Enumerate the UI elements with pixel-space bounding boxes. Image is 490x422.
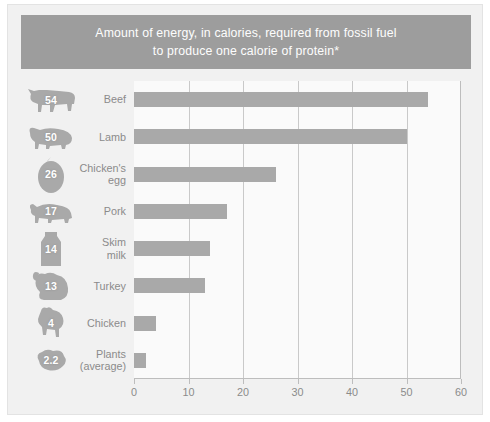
bar — [134, 92, 428, 107]
category-label: Chicken'segg — [66, 162, 126, 187]
category-row: 17Pork — [8, 193, 134, 230]
category-row: 2.2Plants(average) — [8, 342, 134, 379]
axis-tick-label: 20 — [237, 386, 249, 398]
bar-row — [134, 342, 460, 379]
bar — [134, 167, 276, 182]
category-label-line: Lamb — [66, 131, 126, 144]
category-row: 50Lamb — [8, 118, 134, 155]
axis-tick — [134, 379, 135, 384]
value-label: 14 — [45, 243, 57, 255]
chart-area: 54Beef50Lamb26Chicken'segg17Pork14Skimmi… — [8, 77, 483, 415]
value-label: 4 — [48, 317, 54, 329]
bar-row — [134, 193, 460, 230]
axis-tick — [407, 379, 408, 384]
category-label: Turkey — [66, 280, 126, 293]
bar-row — [134, 267, 460, 304]
category-label-line: Chicken's — [66, 162, 126, 175]
plot-area — [134, 81, 461, 379]
bar-row — [134, 156, 460, 193]
value-label: 26 — [45, 168, 57, 180]
category-label-line: Plants — [66, 348, 126, 361]
axis-tick-label: 40 — [346, 386, 358, 398]
category-label-line: egg — [66, 174, 126, 187]
axis-tick-label: 50 — [400, 386, 412, 398]
axis-tick — [298, 379, 299, 384]
value-label: 13 — [45, 280, 57, 292]
value-label: 50 — [45, 131, 57, 143]
chart-title-line-1: Amount of energy, in calories, required … — [95, 24, 396, 42]
axis-tick-label: 0 — [131, 386, 137, 398]
category-label-line: milk — [66, 249, 126, 262]
category-label: Pork — [66, 205, 126, 218]
bar-row — [134, 81, 460, 118]
axis-tick — [189, 379, 190, 384]
category-label-line: Skim — [66, 236, 126, 249]
category-row: 14Skimmilk — [8, 230, 134, 267]
value-label: 54 — [45, 94, 57, 106]
value-label: 17 — [45, 205, 57, 217]
category-row: 4Chicken — [8, 305, 134, 342]
chart-card: Amount of energy, in calories, required … — [7, 4, 483, 415]
category-row: 26Chicken'segg — [8, 156, 134, 193]
bar — [134, 316, 156, 331]
bar-row — [134, 305, 460, 342]
category-label: Plants(average) — [66, 348, 126, 373]
axis-tick — [461, 379, 462, 384]
category-label-line: Turkey — [66, 280, 126, 293]
value-label: 2.2 — [43, 354, 58, 366]
bar — [134, 353, 146, 368]
category-row: 13Turkey — [8, 267, 134, 304]
axis-tick-label: 10 — [182, 386, 194, 398]
category-row: 54Beef — [8, 81, 134, 118]
bar-row — [134, 118, 460, 155]
axis-tick-label: 30 — [291, 386, 303, 398]
category-label: Chicken — [66, 317, 126, 330]
x-axis: 0102030405060 — [134, 379, 462, 409]
category-label: Lamb — [66, 131, 126, 144]
chart-title-banner: Amount of energy, in calories, required … — [21, 15, 471, 69]
bar — [134, 204, 227, 219]
category-label: Skimmilk — [66, 236, 126, 261]
axis-tick-label: 60 — [455, 386, 467, 398]
category-label-line: Chicken — [66, 317, 126, 330]
axis-tick — [243, 379, 244, 384]
category-label-line: Beef — [66, 93, 126, 106]
category-label-line: (average) — [66, 360, 126, 373]
axis-tick — [352, 379, 353, 384]
category-label-line: Pork — [66, 205, 126, 218]
bar-row — [134, 230, 460, 267]
category-gutter: 54Beef50Lamb26Chicken'segg17Pork14Skimmi… — [8, 81, 134, 379]
bar — [134, 129, 407, 144]
chart-title-line-2: to produce one calorie of protein* — [153, 42, 339, 60]
bar — [134, 278, 205, 293]
bar — [134, 241, 210, 256]
category-label: Beef — [66, 93, 126, 106]
